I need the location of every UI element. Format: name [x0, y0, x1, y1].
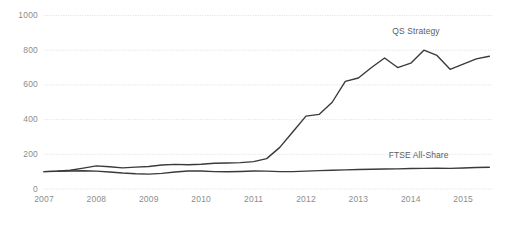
y-axis-tick-label: 1000 — [4, 10, 38, 20]
gridlines — [44, 16, 492, 190]
x-axis-tick-label: 2014 — [391, 194, 431, 204]
x-axis-tick-label: 2012 — [286, 194, 326, 204]
y-axis-tick-label: 200 — [4, 149, 38, 159]
y-axis-tick-label: 400 — [4, 114, 38, 124]
line-chart: 02004006008001000 2007200820092010201120… — [0, 0, 517, 226]
x-axis-tick-label: 2009 — [129, 194, 169, 204]
x-axis-tick-label: 2007 — [24, 194, 64, 204]
x-axis-tick-label: 2013 — [338, 194, 378, 204]
x-axis-tick-label: 2015 — [443, 194, 483, 204]
y-axis-tick-label: 0 — [4, 184, 38, 194]
y-axis-tick-label: 600 — [4, 79, 38, 89]
series-label-ftse-all-share: FTSE All-Share — [389, 150, 449, 160]
y-axis-tick-label: 800 — [4, 45, 38, 55]
series-label-qs-strategy: QS Strategy — [392, 26, 439, 36]
x-axis-tick-label: 2010 — [181, 194, 221, 204]
series-line-ftse-all-share — [44, 167, 489, 174]
x-axis-tick-label: 2008 — [76, 194, 116, 204]
x-axis-tick-label: 2011 — [234, 194, 274, 204]
